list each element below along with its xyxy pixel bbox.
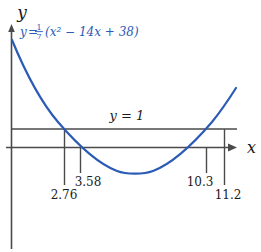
tick-label-3-58: 3.58 (75, 175, 102, 189)
y-axis-label: y (16, 2, 27, 22)
tick-label-2-76: 2.76 (51, 188, 78, 202)
horizontal-line-label: y = 1 (109, 108, 145, 123)
tick-label-11-2: 11.2 (215, 188, 242, 202)
curve-equation-label: y = 1 7 (x² − 14x + 38) (19, 23, 139, 41)
parabola-curve (12, 40, 236, 174)
equation-fraction-denominator: 7 (36, 32, 41, 41)
x-axis (6, 144, 237, 152)
equation-lhs: y (19, 25, 27, 39)
tick-label-10-3: 10.3 (187, 175, 214, 189)
equation-expression: (x² − 14x + 38) (45, 25, 139, 39)
y-axis (8, 24, 15, 249)
math-figure: y x y = 1 7 (x² − 14x + 38) y = 1 2.76 3… (0, 0, 261, 252)
x-axis-label: x (247, 138, 256, 157)
